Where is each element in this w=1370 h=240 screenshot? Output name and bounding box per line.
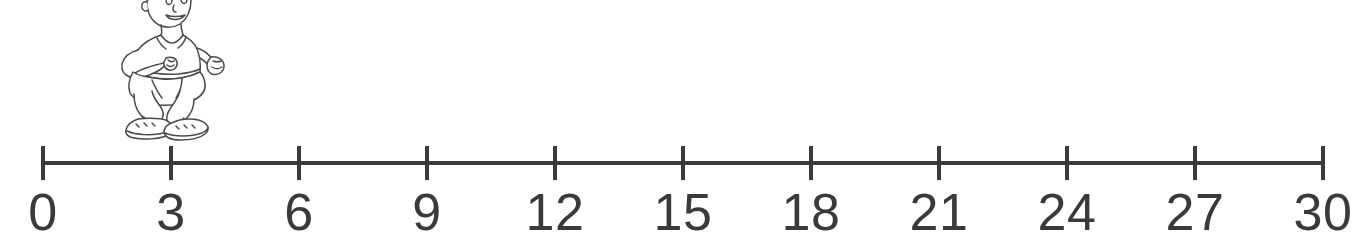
tick-label-27: 27 (1166, 186, 1225, 238)
tick-label-6: 6 (284, 186, 313, 238)
tick-label-3: 3 (156, 186, 185, 238)
tick-label-15: 15 (654, 186, 713, 238)
tick-label-30: 30 (1294, 186, 1353, 238)
worksheet-canvas: 036912151821242730 (0, 0, 1370, 240)
number-line-axis-group (43, 146, 1323, 180)
tick-label-21: 21 (910, 186, 969, 238)
tick-label-24: 24 (1038, 186, 1097, 238)
tick-label-9: 9 (412, 186, 441, 238)
tick-label-0: 0 (28, 186, 57, 238)
tick-label-18: 18 (782, 186, 841, 238)
tick-label-12: 12 (526, 186, 585, 238)
